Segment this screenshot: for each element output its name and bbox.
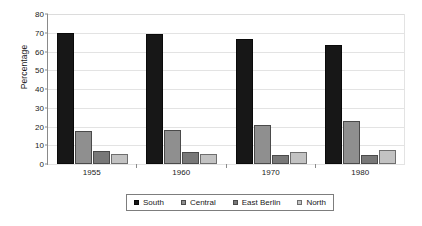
bar-group bbox=[48, 14, 137, 164]
bar-slot bbox=[93, 14, 110, 164]
y-tick-label: 60 bbox=[35, 47, 44, 56]
y-tick-label: 0 bbox=[40, 160, 44, 169]
legend-swatch-icon bbox=[181, 200, 186, 205]
x-axis-label-1960: 1960 bbox=[137, 168, 227, 177]
chart-legend: SouthCentralEast BerlinNorth bbox=[126, 194, 334, 211]
bar-east-berlin-1960 bbox=[182, 152, 199, 164]
y-tick-label: 20 bbox=[35, 122, 44, 131]
bar-north-1960 bbox=[200, 154, 217, 164]
legend-label: East Berlin bbox=[242, 198, 281, 207]
bar-south-1980 bbox=[325, 45, 342, 164]
legend-swatch-icon bbox=[134, 200, 139, 205]
legend-item-south[interactable]: South bbox=[134, 198, 164, 207]
bar-slot bbox=[57, 14, 74, 164]
bar-slot bbox=[379, 14, 396, 164]
y-tick-label: 40 bbox=[35, 85, 44, 94]
y-tick-label: 10 bbox=[35, 141, 44, 150]
gridline bbox=[48, 164, 405, 165]
bar-central-1955 bbox=[75, 131, 92, 164]
bar-south-1960 bbox=[146, 34, 163, 164]
bar-slot bbox=[164, 14, 181, 164]
legend-swatch-icon bbox=[297, 200, 302, 205]
bar-slot bbox=[290, 14, 307, 164]
y-axis-title: Percentage bbox=[19, 22, 29, 112]
bar-slot bbox=[182, 14, 199, 164]
y-tick-label: 70 bbox=[35, 28, 44, 37]
bar-slot bbox=[75, 14, 92, 164]
bar-slot bbox=[325, 14, 342, 164]
bar-central-1970 bbox=[254, 125, 271, 164]
bar-east-berlin-1980 bbox=[361, 155, 378, 164]
legend-label: North bbox=[306, 198, 326, 207]
bar-central-1980 bbox=[343, 121, 360, 164]
x-axis-label-1970: 1970 bbox=[226, 168, 316, 177]
bar-slot bbox=[146, 14, 163, 164]
bar-slot bbox=[254, 14, 271, 164]
bar-north-1970 bbox=[290, 152, 307, 164]
bar-group bbox=[316, 14, 405, 164]
bar-slot bbox=[361, 14, 378, 164]
legend-label: South bbox=[143, 198, 164, 207]
bar-east-berlin-1970 bbox=[272, 155, 289, 164]
bar-south-1970 bbox=[236, 39, 253, 164]
x-axis-label-1955: 1955 bbox=[47, 168, 137, 177]
y-tick-label: 50 bbox=[35, 66, 44, 75]
plot-area: 01020304050607080 bbox=[47, 14, 405, 165]
bar-group bbox=[137, 14, 226, 164]
legend-swatch-icon bbox=[233, 200, 238, 205]
bar-slot bbox=[200, 14, 217, 164]
bar-central-1960 bbox=[164, 130, 181, 164]
legend-item-north[interactable]: North bbox=[297, 198, 326, 207]
legend-label: Central bbox=[190, 198, 216, 207]
bar-slot bbox=[343, 14, 360, 164]
bar-slot bbox=[272, 14, 289, 164]
bar-north-1980 bbox=[379, 150, 396, 164]
y-tick-label: 80 bbox=[35, 10, 44, 19]
x-axis-label-1980: 1980 bbox=[316, 168, 406, 177]
legend-item-east-berlin[interactable]: East Berlin bbox=[233, 198, 281, 207]
legend-item-central[interactable]: Central bbox=[181, 198, 216, 207]
bar-north-1955 bbox=[111, 154, 128, 164]
bar-south-1955 bbox=[57, 33, 74, 164]
bar-groups bbox=[48, 14, 405, 164]
bar-slot bbox=[236, 14, 253, 164]
bar-slot bbox=[111, 14, 128, 164]
bar-east-berlin-1955 bbox=[93, 151, 110, 164]
x-axis-labels: 1955196019701980 bbox=[47, 168, 405, 177]
bar-chart: Percentage 01020304050607080 19551960197… bbox=[0, 0, 422, 226]
y-tick-label: 30 bbox=[35, 103, 44, 112]
bar-group bbox=[227, 14, 316, 164]
